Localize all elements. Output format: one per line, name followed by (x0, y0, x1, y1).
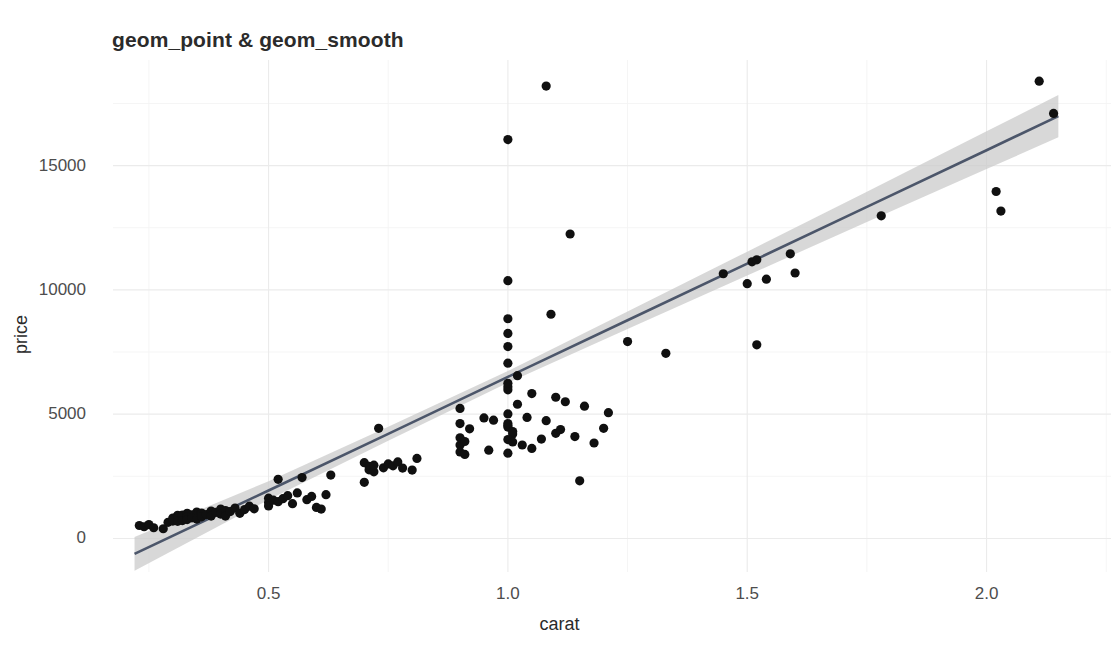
scatter-point (408, 466, 417, 475)
scatter-point (489, 416, 498, 425)
scatter-point (513, 371, 522, 380)
scatter-point (479, 413, 488, 422)
scatter-point (503, 419, 512, 428)
scatter-point (460, 437, 469, 446)
scatter-point (992, 187, 1001, 196)
scatter-point (575, 476, 584, 485)
scatter-point (542, 82, 551, 91)
scatter-point (556, 425, 565, 434)
page-title: geom_point & geom_smooth (112, 28, 404, 52)
scatter-point (566, 229, 575, 238)
y-axis-tick-label: 10000 (39, 280, 86, 300)
scatter-point (321, 490, 330, 499)
scatter-point (580, 402, 589, 411)
scatter-point (546, 310, 555, 319)
scatter-point (374, 424, 383, 433)
scatter-point (551, 393, 560, 402)
scatter-point (604, 408, 613, 417)
scatter-point (743, 279, 752, 288)
x-axis-title-label: carat (0, 614, 1119, 635)
scatter-point (360, 478, 369, 487)
scatter-point (752, 340, 761, 349)
scatter-point (719, 269, 728, 278)
scatter-point (877, 211, 886, 220)
scatter-point (503, 359, 512, 368)
scatter-point (149, 523, 158, 532)
scatter-point (274, 475, 283, 484)
scatter-point (522, 413, 531, 422)
y-axis-tick-label: 0 (77, 528, 86, 548)
scatter-point (503, 379, 512, 388)
scatter-point (460, 450, 469, 459)
scatter-point (503, 329, 512, 338)
y-axis-tick-label: 15000 (39, 156, 86, 176)
scatter-point (752, 255, 761, 264)
x-axis-tick-label: 2.0 (975, 584, 999, 604)
plot-canvas (113, 60, 1111, 572)
x-axis-tick-labels: 0.51.01.52.0 (0, 584, 1119, 610)
chart-figure: geom_point & geom_smooth price carat 050… (0, 0, 1119, 668)
scatter-point (570, 432, 579, 441)
scatter-point (542, 416, 551, 425)
scatter-point (508, 437, 517, 446)
scatter-point (288, 499, 297, 508)
scatter-point (369, 461, 378, 470)
scatter-point (307, 492, 316, 501)
scatter-point (503, 276, 512, 285)
scatter-point (1049, 109, 1058, 118)
scatter-point (455, 404, 464, 413)
scatter-point (599, 424, 608, 433)
y-axis-tick-label: 5000 (48, 404, 86, 424)
y-axis-tick-labels: 050001000015000 (0, 0, 104, 668)
scatter-point (455, 419, 464, 428)
scatter-point (996, 207, 1005, 216)
scatter-point (537, 434, 546, 443)
scatter-points (135, 77, 1058, 534)
scatter-point (561, 397, 570, 406)
scatter-point (484, 446, 493, 455)
scatter-point (527, 389, 536, 398)
scatter-point (589, 438, 598, 447)
scatter-point (297, 473, 306, 482)
scatter-point (503, 449, 512, 458)
scatter-point (398, 464, 407, 473)
scatter-point (412, 454, 421, 463)
scatter-point (503, 314, 512, 323)
scatter-point (465, 424, 474, 433)
scatter-point (326, 470, 335, 479)
scatter-point (661, 349, 670, 358)
regression-line (135, 116, 1059, 554)
scatter-point (508, 427, 517, 436)
scatter-point (762, 275, 771, 284)
x-axis-tick-label: 0.5 (257, 584, 281, 604)
scatter-point (790, 268, 799, 277)
scatter-point (623, 337, 632, 346)
x-axis-tick-label: 1.5 (735, 584, 759, 604)
scatter-point (1035, 77, 1044, 86)
scatter-point (503, 135, 512, 144)
scatter-point (293, 488, 302, 497)
scatter-point (518, 440, 527, 449)
plot-panel (113, 60, 1111, 572)
scatter-point (527, 444, 536, 453)
scatter-point (283, 491, 292, 500)
scatter-point (513, 400, 522, 409)
x-axis-tick-label: 1.0 (496, 584, 520, 604)
scatter-point (503, 409, 512, 418)
scatter-point (317, 505, 326, 514)
scatter-point (250, 504, 259, 513)
scatter-point (786, 249, 795, 258)
scatter-point (503, 342, 512, 351)
